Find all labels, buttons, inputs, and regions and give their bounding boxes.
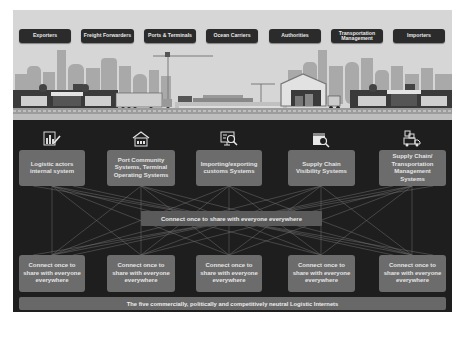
systems-panel: Logistic actors internal system Port Com… [13,120,452,312]
actor-importers[interactable]: Importers [393,29,445,43]
connector-box-2[interactable]: Connect once to share with everyone ever… [107,255,175,292]
actor-exporters[interactable]: Exporters [19,29,71,43]
actor-ports-terminals[interactable]: Ports & Terminals [144,29,196,43]
connector-box-3[interactable]: Connect once to share with everyone ever… [196,255,262,292]
connector-box-1[interactable]: Connect once to share with everyone ever… [19,255,85,292]
logistics-scene-illustration [13,44,452,120]
actor-ocean-carriers[interactable]: Ocean Carriers [206,29,258,43]
actor-freight-forwarders[interactable]: Freight Forwarders [81,29,134,43]
infographic-frame: Exporters Freight Forwarders Ports & Ter… [13,10,452,312]
calendar-search-icon [312,130,330,148]
logistic-internets-bar: The five commercially, politically and c… [19,297,446,310]
actor-transportation-management[interactable]: Transportation Management [331,29,383,43]
port-house-icon [132,130,150,148]
monitor-search-icon [220,130,238,148]
system-box-port-community[interactable]: Port Community Systems, Terminal Operati… [107,150,175,186]
chart-edit-icon [43,130,61,148]
system-box-transportation-management[interactable]: Supply Chain/ Transportation Management … [379,150,446,186]
connector-box-5[interactable]: Connect once to share with everyone ever… [379,255,446,292]
system-box-supply-chain-visibility[interactable]: Supply Chain Visibility Systems [288,150,355,186]
truck-boxes-icon [403,130,421,148]
actors-band: Exporters Freight Forwarders Ports & Ter… [13,10,452,120]
connector-box-4[interactable]: Connect once to share with everyone ever… [288,255,355,292]
system-box-logistic-actors[interactable]: Logistic actors internal system [19,150,85,186]
actor-authorities[interactable]: Authorities [269,29,321,43]
system-box-customs[interactable]: Importing/exporting customs Systems [196,150,262,186]
connect-once-bar: Connect once to share with everyone ever… [141,211,322,226]
